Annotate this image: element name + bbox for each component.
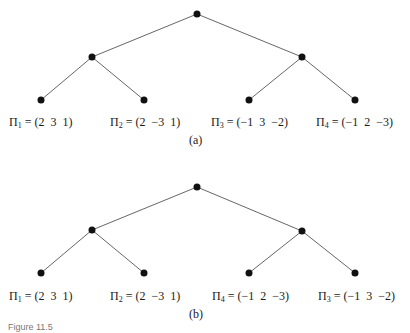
node: [299, 54, 306, 61]
tree-diagrams: [0, 0, 410, 333]
figure-caption: Figure 11.5: [8, 322, 53, 332]
node: [89, 54, 96, 61]
leaf-node: [352, 270, 359, 277]
subfigure-caption: (a): [189, 133, 202, 148]
leaf-label: Π4 = (−1 2 −3): [212, 289, 289, 304]
tree-a-nodes: [38, 11, 359, 104]
leaf-label: Π1 = (2 3 1): [9, 289, 72, 304]
leaf-node: [38, 97, 45, 104]
node-root: [194, 184, 201, 191]
tree-a: [41, 14, 355, 100]
leaf-label: Π2 = (2 −3 1): [110, 289, 180, 304]
leaf-label: Π4 = (−1 2 −3): [316, 115, 393, 130]
leaf-node: [352, 97, 359, 104]
leaf-node: [38, 270, 45, 277]
tree-b-nodes: [38, 184, 359, 277]
node-root: [194, 11, 201, 18]
leaf-node: [246, 270, 253, 277]
leaf-node: [141, 270, 148, 277]
leaf-node: [141, 97, 148, 104]
leaf-label: Π1 = (2 3 1): [9, 115, 72, 130]
node: [299, 228, 306, 235]
leaf-label: Π2 = (2 −3 1): [110, 115, 180, 130]
node: [89, 227, 96, 234]
subfigure-caption: (b): [189, 307, 203, 322]
leaf-label: Π3 = (−1 3 −2): [211, 115, 288, 130]
tree-b: [41, 187, 355, 273]
leaf-label: Π3 = (−1 3 −2): [318, 289, 395, 304]
leaf-node: [246, 97, 253, 104]
